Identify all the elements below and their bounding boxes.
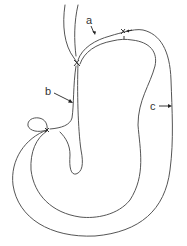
esophagus xyxy=(64,5,78,64)
label-c: c xyxy=(150,100,156,112)
cardia-marker xyxy=(74,60,80,66)
label-a-callout: a xyxy=(86,14,96,35)
label-b-callout: b xyxy=(45,85,73,103)
stomach-diagram: a b c xyxy=(0,0,187,246)
inner-contour xyxy=(31,39,156,217)
outer-contour xyxy=(13,30,173,237)
top-junction-marker xyxy=(121,29,132,39)
pylorus-loop xyxy=(28,118,47,132)
label-c-callout: c xyxy=(150,100,172,112)
label-b: b xyxy=(45,85,51,97)
label-a: a xyxy=(86,14,93,26)
